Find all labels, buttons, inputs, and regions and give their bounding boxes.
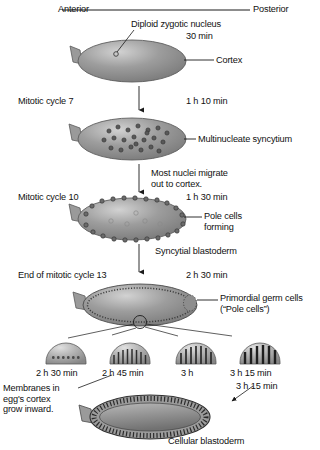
time-stage-zygote: 30 min bbox=[186, 31, 213, 42]
note-nuclei-migrate: Most nuclei migrate out to cortex. bbox=[151, 168, 228, 189]
callout-cellular-blastoderm: Cellular blastoderm bbox=[168, 436, 244, 447]
callout-diploid-zygotic-nucleus: Diploid zygotic nucleus bbox=[131, 19, 221, 30]
time-inset-3: 3 h bbox=[181, 368, 193, 379]
time-inset-2: 2 h 45 min bbox=[102, 368, 143, 379]
label-end-mitotic-cycle-13: End of mitotic cycle 13 bbox=[18, 270, 106, 281]
embryo-stage-end-cycle-13 bbox=[68, 284, 232, 338]
label-mitotic-cycle-7: Mitotic cycle 7 bbox=[18, 96, 73, 107]
note-membranes-grow-inward: Membranes in egg's cortex grow inward. bbox=[3, 383, 59, 415]
inset-1 bbox=[46, 343, 86, 364]
callout-primordial-germ-cells: Primordial germ cells (“Pole cells”) bbox=[220, 293, 303, 314]
embryo-stage-syncytial-blastoderm bbox=[69, 196, 202, 272]
label-posterior: Posterior bbox=[253, 4, 288, 15]
time-inset-4: 3 h 15 min bbox=[230, 368, 271, 379]
time-stage-cellular-blastoderm: 3 h 15 min bbox=[236, 381, 277, 392]
label-mitotic-cycle-10: Mitotic cycle 10 bbox=[18, 192, 78, 203]
callout-cortex: Cortex bbox=[216, 55, 242, 66]
time-inset-1: 2 h 30 min bbox=[36, 368, 77, 379]
figure-canvas: Anterior Posterior Diploid zygotic nucle… bbox=[0, 0, 320, 450]
inset-4 bbox=[240, 343, 280, 364]
time-stage-cycle-13: 2 h 30 min bbox=[186, 270, 227, 281]
callout-pole-cells-forming: Pole cells forming bbox=[204, 211, 242, 232]
embryo-stage-cellular-blastoderm bbox=[79, 395, 210, 439]
callout-syncytial-blastoderm: Syncytial blastoderm bbox=[155, 246, 237, 257]
label-anterior: Anterior bbox=[58, 4, 89, 15]
time-stage-cycle-10: 1 h 30 min bbox=[186, 192, 227, 203]
time-stage-cycle-7: 1 h 10 min bbox=[186, 96, 227, 107]
callout-multinucleate-syncytium: Multinucleate syncytium bbox=[198, 134, 292, 145]
pole-cells bbox=[184, 295, 197, 311]
inset-2 bbox=[110, 343, 150, 364]
inset-3 bbox=[176, 343, 216, 364]
